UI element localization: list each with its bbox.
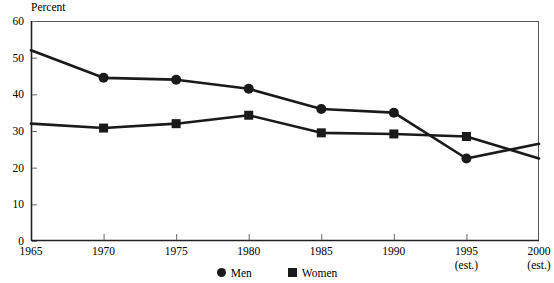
- legend-item-women: Women: [288, 265, 337, 280]
- data-point-women-1995: [462, 132, 471, 141]
- data-point-women-1970: [99, 124, 108, 133]
- data-point-men-1985: [316, 104, 326, 114]
- data-point-men-1995: [461, 154, 471, 164]
- x-axis-tick-1995: 1995: [436, 245, 496, 258]
- data-point-men-1975: [171, 75, 181, 85]
- data-point-women-1980: [244, 111, 253, 120]
- y-axis-tick-20: 20: [0, 162, 24, 174]
- y-axis-title: Percent: [31, 1, 65, 14]
- x-axis-tick-1980: 1980: [219, 245, 279, 258]
- y-axis-tick-50: 50: [0, 52, 24, 64]
- data-point-men-1980: [244, 84, 254, 94]
- y-axis-tick-30: 30: [0, 125, 24, 137]
- x-axis-tick-2000: 2000: [509, 245, 554, 258]
- x-axis-tick-1970: 1970: [74, 245, 134, 258]
- x-axis-tick-1990: 1990: [364, 245, 424, 258]
- circle-marker-icon: [217, 268, 226, 277]
- square-marker-icon: [288, 268, 297, 277]
- x-axis-tick-1975: 1975: [146, 245, 206, 258]
- legend-label-women: Women: [302, 266, 337, 280]
- axis-ticks: [32, 22, 467, 242]
- x-axis-tick-1965: 1965: [1, 245, 61, 258]
- plot-area: [0, 0, 554, 283]
- y-axis-tick-40: 40: [0, 88, 24, 100]
- chart-container: Percent 0102030405060 196519701975198019…: [0, 0, 554, 283]
- legend-item-men: Men: [217, 265, 252, 280]
- legend-label-men: Men: [231, 266, 252, 280]
- data-point-men-1990: [389, 108, 399, 118]
- chart-legend: MenWomen: [0, 264, 554, 280]
- y-axis-tick-60: 60: [0, 15, 24, 27]
- series-line-men: [31, 50, 539, 158]
- data-point-men-1970: [99, 73, 109, 83]
- data-series: [31, 50, 539, 163]
- x-axis-tick-1985: 1985: [291, 245, 351, 258]
- data-point-women-1975: [172, 119, 181, 128]
- y-axis-tick-10: 10: [0, 198, 24, 210]
- data-point-women-1990: [389, 129, 398, 138]
- data-point-women-1985: [317, 128, 326, 137]
